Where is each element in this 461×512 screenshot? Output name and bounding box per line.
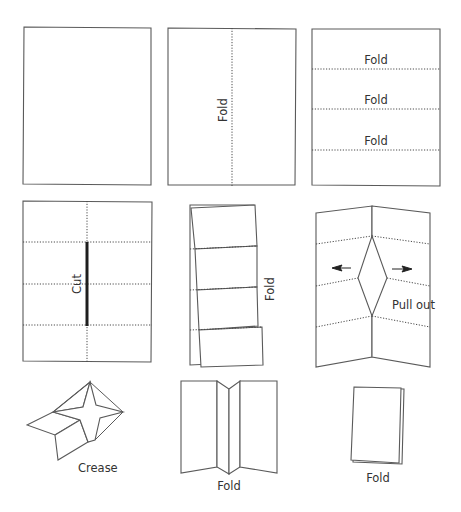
right-panel — [240, 381, 277, 473]
step-3-horizontal-folds: Fold Fold Fold — [312, 29, 440, 186]
folding-diagram: Fold Fold Fold Fold Cut Fold — [0, 0, 461, 512]
fold-label: Fold — [366, 471, 390, 485]
fold-label-2: Fold — [364, 93, 388, 107]
fold-label: Fold — [217, 479, 241, 493]
pull-out-label: Pull out — [392, 298, 435, 312]
fold-label: Fold — [216, 98, 230, 122]
fold-label-3: Fold — [364, 134, 388, 148]
flap-top — [191, 205, 257, 249]
flap-lower-middle — [197, 287, 258, 330]
paper-sheet — [23, 27, 151, 185]
step-9-folded-card: Fold — [351, 387, 404, 485]
step-5-folded-sheet: Fold — [190, 205, 277, 367]
crease-label: Crease — [78, 461, 118, 475]
left-panel — [181, 381, 217, 473]
step-6-pull-out: Pull out — [316, 206, 435, 367]
step-4-cut: Cut — [23, 201, 152, 362]
step-2-vertical-fold: Fold — [168, 28, 296, 186]
fold-label-1: Fold — [364, 53, 388, 67]
cut-label: Cut — [70, 274, 84, 294]
inner-right-panel — [229, 381, 240, 474]
step-7-crease: Crease — [27, 382, 123, 475]
card-front — [351, 387, 401, 463]
step-1-blank-sheet — [23, 27, 151, 185]
step-8-zigzag-fold: Fold — [181, 381, 277, 493]
fold-label: Fold — [263, 277, 277, 301]
flap-upper-middle — [195, 246, 257, 290]
inner-left-panel — [217, 381, 229, 474]
flap-bottom — [199, 327, 263, 367]
